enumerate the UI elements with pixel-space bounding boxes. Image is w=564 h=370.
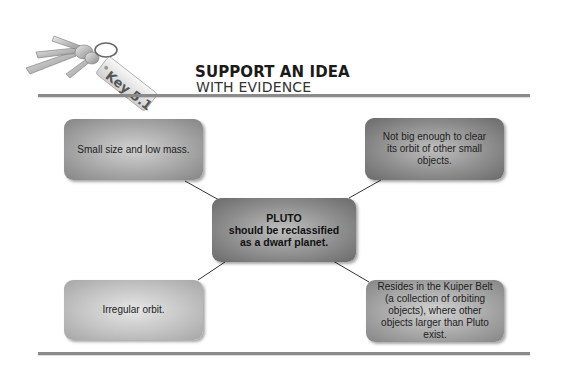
evidence-text: Irregular orbit. bbox=[102, 304, 164, 316]
evidence-box-top-left: Small size and low mass. bbox=[64, 119, 203, 180]
claim-line-2: should be reclassified bbox=[229, 224, 339, 236]
evidence-box-top-right: Not big enough to clear its orbit of oth… bbox=[365, 118, 504, 180]
evidence-box-bottom-right: Resides in the Kuiper Belt (a collection… bbox=[366, 280, 504, 342]
central-claim-box: PLUTO should be reclassified as a dwarf … bbox=[212, 198, 356, 262]
evidence-text: Not big enough to clear its orbit of oth… bbox=[380, 131, 490, 167]
evidence-text: Resides in the Kuiper Belt (a collection… bbox=[372, 281, 498, 341]
claim-title: PLUTO bbox=[266, 212, 301, 224]
claim-line-3: as a dwarf planet. bbox=[240, 236, 328, 248]
evidence-box-bottom-left: Irregular orbit. bbox=[64, 280, 203, 340]
evidence-text: Small size and low mass. bbox=[77, 144, 189, 156]
